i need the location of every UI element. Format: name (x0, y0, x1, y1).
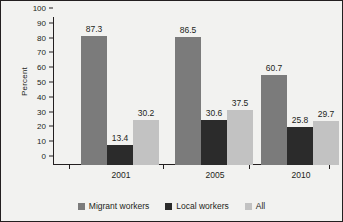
x-axis-category-label: 2010 (292, 170, 311, 180)
bar (287, 127, 313, 165)
y-axis-tick-mark (49, 82, 53, 83)
x-axis-separator (329, 165, 330, 169)
bar-value-label: 13.4 (112, 133, 129, 143)
y-axis-tick-mark (49, 111, 53, 112)
y-axis-tick-label: 60 (29, 63, 46, 72)
x-axis-separator (249, 165, 250, 169)
x-axis-category-label: 2005 (206, 170, 225, 180)
bar (227, 110, 253, 166)
y-axis-tick-mark (49, 37, 53, 38)
legend-item[interactable]: Local workers (165, 201, 228, 211)
bar (133, 120, 159, 165)
y-axis-tick-label: 90 (29, 18, 46, 27)
chart-figure: Percent 0102030405060708090100 87.313.43… (0, 0, 343, 222)
y-axis-tick-mark (49, 67, 53, 68)
y-axis-tick-mark (49, 22, 53, 23)
bar-slot: 60.7 (261, 17, 287, 165)
legend-label: Local workers (176, 201, 228, 211)
bar-value-label: 60.7 (266, 63, 283, 73)
bar-slot: 13.4 (107, 17, 133, 165)
bar-group-bars: 86.530.637.5 (175, 17, 255, 165)
y-axis-tick: 70 (29, 48, 53, 57)
legend-swatch-icon (165, 203, 172, 210)
y-axis-tick-label: 10 (29, 137, 46, 146)
bar (313, 121, 339, 165)
legend-label: Migrant workers (89, 201, 149, 211)
x-axis-separator (69, 165, 70, 169)
y-axis-tick: 60 (29, 63, 53, 72)
legend-item[interactable]: All (245, 201, 265, 211)
bar-value-label: 25.8 (292, 115, 309, 125)
legend-label: All (256, 201, 265, 211)
y-axis-tick-label: 70 (29, 48, 46, 57)
bar-value-label: 37.5 (232, 98, 249, 108)
y-axis-tick: 20 (29, 122, 53, 131)
bar-value-label: 30.2 (138, 108, 155, 118)
plot-area: 0102030405060708090100 87.313.430.220018… (53, 17, 329, 165)
y-axis-tick-label: 100 (29, 4, 46, 13)
y-axis-title-text: Percent (20, 67, 29, 96)
bar-group-bars: 87.313.430.2 (81, 17, 161, 165)
y-axis-line (53, 17, 54, 165)
chart-legend: Migrant workersLocal workersAll (1, 201, 342, 211)
bar-slot: 86.5 (175, 17, 201, 165)
legend-swatch-icon (78, 203, 85, 210)
y-axis-tick-label: 30 (29, 107, 46, 116)
y-axis-tick-mark (49, 126, 53, 127)
bar (107, 145, 133, 165)
y-axis-tick-label: 80 (29, 33, 46, 42)
bar (201, 120, 227, 165)
bar-slot: 87.3 (81, 17, 107, 165)
bar-group: 60.725.829.72010 (261, 17, 341, 165)
y-axis-tick-label: 20 (29, 122, 46, 131)
bar-value-label: 86.5 (180, 25, 197, 35)
legend-item[interactable]: Migrant workers (78, 201, 149, 211)
bar-slot: 25.8 (287, 17, 313, 165)
y-axis-tick: 30 (29, 107, 53, 116)
bar-group: 86.530.637.52005 (175, 17, 255, 165)
y-axis-tick: 0 (29, 152, 53, 161)
y-axis-tick-mark (49, 52, 53, 53)
y-axis-tick: 90 (29, 18, 53, 27)
bar-group: 87.313.430.22001 (81, 17, 161, 165)
bar-value-label: 87.3 (86, 24, 103, 34)
bar (261, 75, 287, 165)
y-axis-tick-label: 0 (29, 152, 46, 161)
y-axis-tick-mark (49, 141, 53, 142)
bar (81, 36, 107, 165)
y-axis-tick-mark (49, 96, 53, 97)
bar-slot: 30.2 (133, 17, 159, 165)
bar-value-label: 30.6 (206, 108, 223, 118)
y-axis-tick: 80 (29, 33, 53, 42)
y-axis-tick: 100 (29, 4, 53, 13)
bar (175, 37, 201, 165)
y-axis-tick: 10 (29, 137, 53, 146)
y-axis-tick-label: 40 (29, 92, 46, 101)
bar-group-bars: 60.725.829.7 (261, 17, 341, 165)
y-axis-tick: 50 (29, 78, 53, 87)
bar-slot: 37.5 (227, 17, 253, 165)
y-axis-tick-mark (49, 156, 53, 157)
bar-slot: 29.7 (313, 17, 339, 165)
x-axis-separator (163, 165, 164, 169)
bar-value-label: 29.7 (318, 109, 335, 119)
bar-slot: 30.6 (201, 17, 227, 165)
y-axis-tick: 40 (29, 92, 53, 101)
x-axis-category-label: 2001 (112, 170, 131, 180)
y-axis-tick-mark (49, 8, 53, 9)
legend-swatch-icon (245, 203, 252, 210)
y-axis-tick-label: 50 (29, 78, 46, 87)
